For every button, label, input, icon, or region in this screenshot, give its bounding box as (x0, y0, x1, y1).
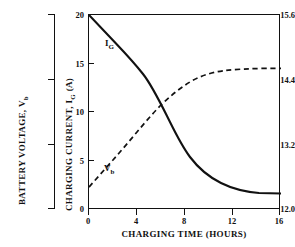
current-tick-mark (88, 63, 94, 64)
time-tick-mark (279, 209, 280, 215)
time-tick-mark (184, 209, 185, 215)
plot-curves (89, 15, 281, 210)
series-vb-curve (89, 68, 281, 187)
voltage-axis-title-subscript: b (22, 96, 30, 100)
time-tick-label: 8 (172, 216, 196, 226)
current-tick-label: 5 (58, 156, 84, 166)
time-tick-label: 4 (124, 216, 148, 226)
current-tick-label: 10 (58, 107, 84, 117)
time-tick-label: 12 (220, 216, 244, 226)
current-tick-mark (88, 111, 94, 112)
time-axis-title: CHARGING TIME (HOURS) (88, 229, 280, 239)
current-tick-mark (88, 160, 94, 161)
voltage-tick-mark (48, 79, 54, 80)
voltage-axis-title-text: BATTERY VOLTAGE, V (17, 100, 27, 205)
voltage-tick-mark (48, 14, 54, 15)
series-label-vb: Vb (104, 163, 114, 176)
voltage-axis-spine (54, 14, 55, 209)
current-axis-title-subscript: G (69, 94, 77, 100)
current-axis-title-unit: (A) (64, 78, 74, 94)
time-tick-mark (136, 209, 137, 215)
series-label-ig: IG (105, 38, 114, 51)
voltage-tick-mark (48, 144, 54, 145)
voltage-axis-title: BATTERY VOLTAGE, Vb (17, 96, 30, 205)
series-label-ig-subscript: G (109, 43, 114, 51)
current-tick-label: 15 (58, 59, 84, 69)
time-tick-label: 16 (267, 216, 291, 226)
series-ig-curve (89, 15, 281, 194)
current-axis-title: CHARGING CURRENT, IG (A) (64, 78, 77, 211)
time-tick-mark (232, 209, 233, 215)
series-label-vb-subscript: b (111, 168, 115, 176)
time-tick-mark (88, 209, 89, 215)
current-tick-mark (88, 14, 94, 15)
chart-figure: BATTERY VOLTAGE, Vb CHARGING CURRENT, IG… (0, 0, 295, 247)
plot-area (88, 14, 280, 209)
current-tick-label: 0 (58, 204, 84, 214)
voltage-tick-mark (48, 208, 54, 209)
current-tick-label: 20 (58, 10, 84, 20)
time-tick-label: 0 (76, 216, 100, 226)
